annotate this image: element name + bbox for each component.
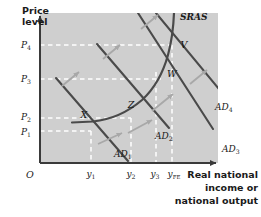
ad-sras-diagram: Price level Real national income or nati… [0, 0, 261, 217]
curve-label-ad4: AD4 [214, 102, 233, 113]
y-tick-p2: P2 [20, 112, 31, 123]
x-axis-label-line2: income or [205, 182, 258, 193]
y-tick-p3: P3 [20, 74, 31, 85]
curve-label-ad3: AD3 [221, 144, 240, 155]
plot-area-background [40, 13, 218, 163]
origin-label: O [26, 169, 34, 180]
curve-label-sras: SRAS [180, 12, 208, 22]
y-axis-label-line2: level [22, 16, 48, 27]
y-tick-p4: P4 [20, 40, 31, 51]
x-tick-y2: y2 [125, 169, 135, 180]
y-tick-p1: P1 [20, 127, 31, 138]
point-label-w: W [167, 68, 178, 79]
x-tick-y3: y3 [149, 169, 159, 180]
x-tick-yfe: yFE [167, 169, 181, 180]
x-axis-label-line1: Real national [187, 169, 258, 180]
x-tick-y1: y1 [85, 169, 95, 180]
chart-canvas: Price level Real national income or nati… [0, 0, 261, 217]
y-axis-label-line1: Price [22, 5, 49, 16]
point-label-x: X [80, 109, 89, 120]
x-axis-label-line3: national output [175, 195, 259, 206]
point-label-z: Z [127, 99, 135, 110]
point-label-v: V [181, 39, 189, 50]
